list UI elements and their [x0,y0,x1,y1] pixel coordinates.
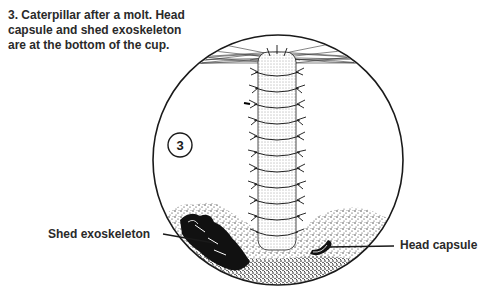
label-head-capsule: Head capsule [400,238,477,252]
cup-interior [150,44,410,299]
step-badge: 3 [168,133,192,157]
cup-illustration: 3 [0,0,500,299]
step-number: 3 [176,138,183,153]
label-shed-exoskeleton: Shed exoskeleton [48,227,150,241]
caterpillar [244,45,306,250]
